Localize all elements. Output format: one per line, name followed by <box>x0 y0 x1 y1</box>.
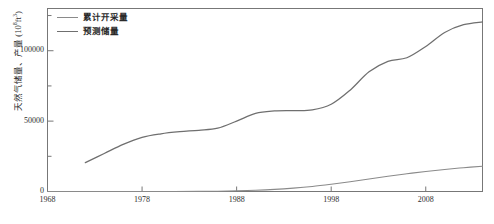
legend-label: 累计开采量 <box>83 12 128 23</box>
chart-legend: 累计开采量预测储量 <box>57 12 128 37</box>
y-axis-ticks: 050000100000 <box>0 0 44 224</box>
y-tick-label: 0 <box>40 186 44 195</box>
x-tick-label: 2008 <box>418 195 434 204</box>
x-axis-ticks: 19681978198819982008 <box>0 195 494 209</box>
x-tick-label: 1988 <box>229 195 245 204</box>
legend-label: 预测储量 <box>83 26 119 37</box>
y-tick-label: 50000 <box>24 116 44 125</box>
y-tick-label: 100000 <box>20 45 44 54</box>
x-tick-label: 1968 <box>40 195 56 204</box>
legend-item: 累计开采量 <box>57 12 128 23</box>
legend-line-swatch <box>57 31 78 32</box>
x-tick-label: 1998 <box>323 195 339 204</box>
x-tick-label: 1978 <box>134 195 150 204</box>
chart-figure: 天然气储量、产量 (108ft3) 050000100000 196819781… <box>0 0 494 224</box>
legend-item: 预测储量 <box>57 26 128 37</box>
legend-line-swatch <box>57 17 78 18</box>
